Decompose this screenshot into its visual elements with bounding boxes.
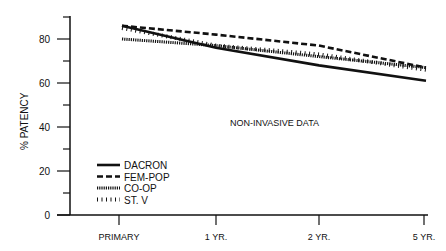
y-axis-label: % PATENCY: [19, 92, 30, 150]
y-ticks: 020406080: [39, 17, 70, 221]
y-tick-label: 40: [39, 122, 51, 133]
series-fem-pop: [122, 26, 426, 68]
legend-label: FEM-POP: [124, 172, 170, 183]
series-lines: [122, 26, 426, 81]
x-tick-label: PRIMARY: [99, 232, 140, 242]
patency-chart: 020406080 PRIMARY1 YR.2 YR.5 YR. % PATEN…: [0, 0, 446, 251]
x-tick-label: 2 YR.: [308, 232, 330, 242]
legend-label: ST. V: [124, 195, 148, 206]
series-st-v: [122, 28, 426, 70]
legend-label: DACRON: [124, 160, 167, 171]
y-tick-label: 0: [44, 210, 50, 221]
x-ticks: PRIMARY1 YR.2 YR.5 YR.: [99, 215, 436, 242]
legend-label: CO-OP: [124, 183, 157, 194]
x-tick-label: 1 YR.: [205, 232, 227, 242]
y-tick-label: 60: [39, 78, 51, 89]
legend: DACRONFEM-POPCO-OPST. V: [97, 160, 170, 206]
x-tick-label: 5 YR.: [413, 232, 435, 242]
y-tick-label: 80: [39, 34, 51, 45]
y-tick-label: 20: [39, 166, 51, 177]
annotation: NON-INVASIVE DATA: [230, 118, 319, 128]
